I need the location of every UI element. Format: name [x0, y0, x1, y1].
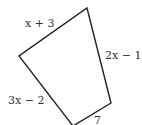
- side-label-bottom: 7: [94, 115, 101, 125]
- side-label-top-left: x + 3: [25, 18, 54, 29]
- quadrilateral-diagram: x + 3 2x − 1 3x − 2 7: [0, 0, 142, 125]
- side-label-right: 2x − 1: [105, 50, 141, 61]
- side-label-bottom-left: 3x − 2: [8, 95, 44, 106]
